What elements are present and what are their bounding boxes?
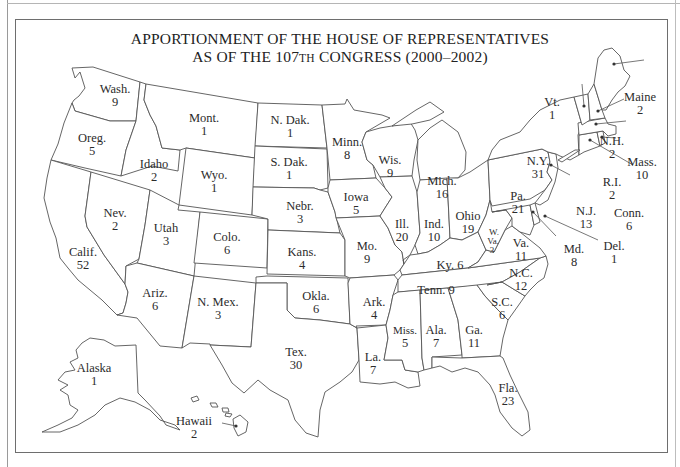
svg-text:Okla.: Okla.	[302, 289, 329, 303]
svg-text:9: 9	[364, 252, 370, 266]
label-massachusetts: Mass. 10	[627, 155, 657, 182]
svg-text:N.J.: N.J.	[576, 204, 596, 218]
svg-text:Ind.: Ind.	[424, 217, 444, 231]
svg-text:9: 9	[112, 95, 118, 109]
svg-text:2: 2	[191, 427, 197, 441]
svg-text:N.H.: N.H.	[600, 134, 624, 148]
hawaii-island	[210, 403, 218, 407]
svg-text:Idaho: Idaho	[140, 157, 168, 171]
svg-text:Oreg.: Oreg.	[78, 131, 106, 145]
label-delaware: Del. 1	[603, 239, 624, 266]
svg-text:Pa.: Pa.	[510, 189, 526, 203]
svg-text:11: 11	[468, 336, 480, 350]
svg-text:Ariz.: Ariz.	[142, 286, 167, 300]
svg-text:Kans.: Kans.	[288, 245, 317, 259]
label-maine: Maine 2	[624, 90, 656, 117]
svg-text:4: 4	[299, 258, 306, 272]
svg-text:Nebr.: Nebr.	[286, 199, 313, 213]
svg-text:Ala.: Ala.	[425, 323, 446, 337]
svg-text:Conn.: Conn.	[614, 206, 644, 220]
arrow-tip	[582, 104, 585, 107]
svg-text:2: 2	[112, 219, 118, 233]
svg-text:Ky. 6: Ky. 6	[437, 258, 464, 272]
label-new-jersey: N.J. 13	[576, 204, 596, 231]
svg-text:3: 3	[163, 234, 169, 248]
svg-text:N. Dak.: N. Dak.	[270, 113, 309, 127]
svg-text:Wyo.: Wyo.	[201, 168, 228, 182]
svg-text:21: 21	[512, 202, 525, 216]
svg-text:S.C.: S.C.	[491, 295, 513, 309]
svg-text:Minn.: Minn.	[332, 135, 362, 149]
svg-text:S. Dak.: S. Dak.	[270, 155, 307, 169]
svg-text:5: 5	[402, 336, 408, 350]
hawaii-island	[225, 413, 232, 417]
svg-text:Del.: Del.	[603, 239, 624, 253]
svg-text:7: 7	[433, 336, 439, 350]
svg-text:Fla.: Fla.	[498, 381, 517, 395]
svg-text:Mont.: Mont.	[189, 111, 219, 125]
state-alaska[interactable]	[42, 338, 180, 432]
arrow-tip	[531, 210, 534, 213]
svg-text:30: 30	[290, 358, 303, 372]
svg-text:6: 6	[499, 308, 505, 322]
svg-text:N.C.: N.C.	[509, 266, 533, 280]
label-maryland: Md. 8	[564, 242, 585, 269]
svg-text:12: 12	[515, 279, 528, 293]
svg-text:1: 1	[286, 168, 292, 182]
svg-text:N.Y.: N.Y.	[527, 154, 550, 168]
svg-text:2: 2	[609, 188, 615, 202]
svg-text:Alaska: Alaska	[77, 361, 112, 375]
state-connecticut[interactable]	[579, 132, 600, 155]
svg-text:3: 3	[490, 245, 495, 255]
svg-text:6: 6	[313, 302, 319, 316]
svg-text:Wash.: Wash.	[100, 82, 131, 96]
svg-text:Va.: Va.	[513, 236, 529, 250]
hawaii-island	[222, 408, 229, 412]
state-florida[interactable]	[432, 356, 530, 436]
svg-text:R.I.: R.I.	[603, 175, 622, 189]
svg-text:1: 1	[549, 108, 555, 122]
arrow-tip	[588, 138, 591, 141]
svg-text:Calif.: Calif.	[69, 245, 97, 259]
svg-text:2: 2	[637, 103, 643, 117]
svg-text:20: 20	[396, 230, 409, 244]
arrow-tip	[543, 214, 546, 217]
arrow-tip	[612, 62, 615, 65]
svg-text:9: 9	[387, 166, 393, 180]
svg-text:Maine: Maine	[624, 90, 656, 104]
svg-text:Colo.: Colo.	[213, 230, 240, 244]
svg-text:Tex.: Tex.	[285, 345, 307, 359]
svg-text:10: 10	[428, 230, 441, 244]
svg-text:3: 3	[297, 212, 303, 226]
svg-text:16: 16	[436, 187, 449, 201]
svg-text:6: 6	[626, 219, 632, 233]
svg-text:Miss.: Miss.	[393, 324, 417, 336]
svg-text:23: 23	[502, 394, 515, 408]
svg-text:6: 6	[152, 299, 158, 313]
svg-text:Utah: Utah	[154, 221, 179, 235]
svg-text:Vt.: Vt.	[544, 95, 560, 109]
svg-text:5: 5	[353, 203, 359, 217]
svg-text:La.: La.	[365, 350, 381, 364]
hawaii-island	[191, 396, 199, 402]
label-virginia: Va. 11	[513, 236, 529, 263]
svg-text:31: 31	[532, 167, 545, 181]
svg-text:Hawaii: Hawaii	[176, 414, 213, 428]
svg-text:Ill.: Ill.	[395, 217, 409, 231]
svg-text:4: 4	[371, 308, 378, 322]
state-new-york[interactable]	[488, 97, 582, 160]
svg-text:52: 52	[77, 258, 90, 272]
svg-text:8: 8	[571, 255, 577, 269]
label-tennessee: Tenn. 9	[417, 283, 454, 297]
svg-text:6: 6	[224, 243, 230, 257]
svg-text:1: 1	[287, 126, 293, 140]
svg-text:7: 7	[370, 363, 376, 377]
arrow-tip	[549, 163, 552, 166]
svg-text:Ark.: Ark.	[363, 295, 386, 309]
svg-text:Tenn. 9: Tenn. 9	[417, 283, 454, 297]
svg-text:19: 19	[462, 222, 475, 236]
svg-text:2: 2	[151, 170, 157, 184]
svg-text:1: 1	[611, 252, 617, 266]
label-connecticut: Conn. 6	[614, 206, 644, 233]
label-pennsylvania: Pa. 21	[510, 189, 526, 216]
